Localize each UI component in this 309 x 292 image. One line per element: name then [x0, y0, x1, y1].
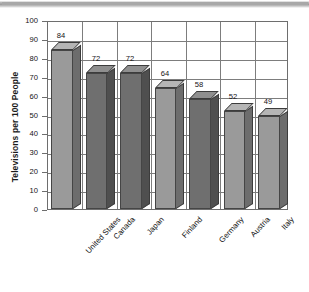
bar-japan: [120, 73, 142, 209]
data-label: 58: [187, 81, 211, 89]
y-tick-label: 20: [4, 168, 38, 176]
plot-area: [47, 21, 288, 210]
y-tick-label: 100: [4, 17, 38, 25]
bar-face-side: [211, 94, 219, 209]
y-tick-mark: [42, 210, 47, 211]
bar-face-front: [86, 73, 108, 209]
bar-face-front: [189, 99, 211, 209]
y-tick-label: 50: [4, 112, 38, 120]
bar-italy: [258, 116, 280, 209]
y-tick-label: 10: [4, 187, 38, 195]
y-tick-label: 40: [4, 130, 38, 138]
data-label: 49: [256, 98, 280, 106]
data-label: 52: [221, 93, 245, 101]
gridline-vertical: [186, 22, 187, 209]
y-tick-label: 30: [4, 149, 38, 157]
bar-face-side: [280, 111, 288, 209]
data-label: 72: [118, 55, 142, 63]
bar-austria: [224, 111, 246, 209]
bar-united-states: [51, 50, 73, 209]
x-axis-label: Italy: [280, 215, 296, 232]
bar-face-front: [258, 116, 280, 209]
y-tick-label: 60: [4, 93, 38, 101]
bar-chart: Televisions per 100 People 0102030405060…: [0, 0, 309, 292]
bar-face-front: [51, 50, 73, 209]
x-axis-label: Finland: [180, 215, 204, 240]
gridline-vertical: [151, 22, 152, 209]
bar-germany: [189, 99, 211, 209]
y-tick-label: 80: [4, 55, 38, 63]
bar-face-side: [107, 68, 115, 209]
gridline-vertical: [220, 22, 221, 209]
bar-face-side: [176, 83, 184, 209]
y-tick-label: 90: [4, 36, 38, 44]
y-tick-label: 0: [4, 206, 38, 214]
bar-face-front: [155, 88, 177, 209]
bar-face-front: [224, 111, 246, 209]
gridline-vertical: [255, 22, 256, 209]
gridline-vertical: [117, 22, 118, 209]
bar-face-side: [73, 45, 81, 209]
data-label: 72: [84, 55, 108, 63]
gridline-horizontal: [48, 41, 287, 42]
bar-face-side: [245, 106, 253, 209]
bar-face-side: [142, 68, 150, 209]
bar-finland: [155, 88, 177, 209]
bar-face-front: [120, 73, 142, 209]
x-axis-label: Germany: [217, 215, 245, 245]
gridline-vertical: [82, 22, 83, 209]
x-axis-label: Austria: [249, 215, 272, 239]
data-label: 84: [49, 32, 73, 40]
data-label: 64: [153, 70, 177, 78]
bar-canada: [86, 73, 108, 209]
x-axis-label: Japan: [145, 215, 166, 237]
y-tick-label: 70: [4, 74, 38, 82]
